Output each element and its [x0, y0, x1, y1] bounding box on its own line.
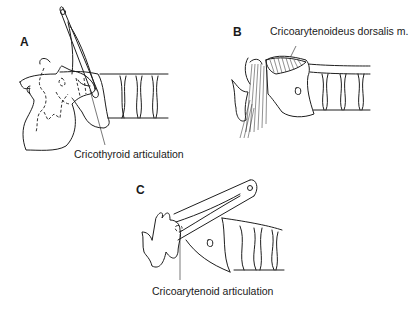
panel-c-drawing [0, 0, 412, 312]
